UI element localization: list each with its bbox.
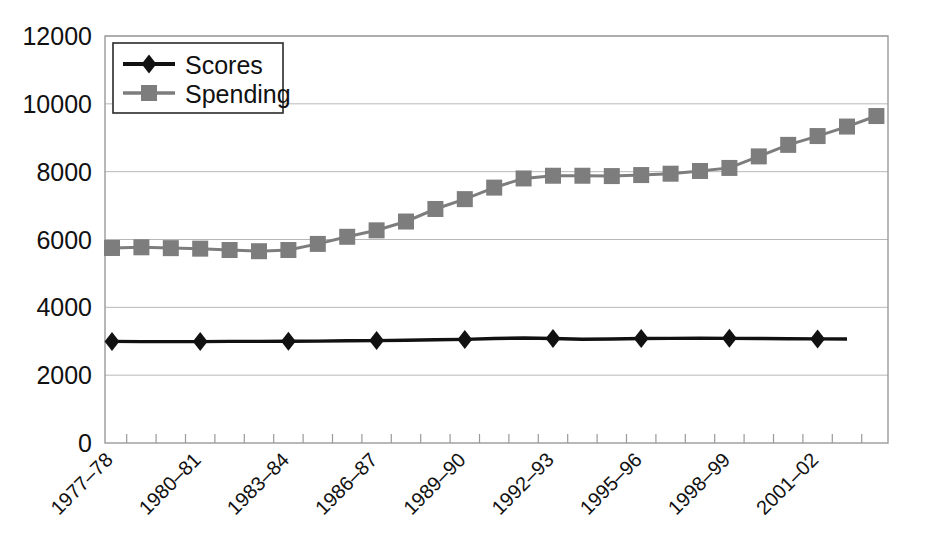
marker-spending [721,160,737,176]
marker-spending [780,137,796,153]
marker-spending [516,170,532,186]
marker-spending [427,201,443,217]
y-tick-label: 10000 [22,90,92,118]
marker-spending [398,214,414,230]
y-tick-label: 0 [78,429,92,457]
marker-spending [810,128,826,144]
marker-spending [545,168,561,184]
marker-spending [692,163,708,179]
marker-spending [663,166,679,182]
marker-spending [868,108,884,124]
legend-marker-spending [141,85,157,101]
marker-spending [486,180,502,196]
marker-spending [751,148,767,164]
marker-spending [280,242,296,258]
y-tick-label: 12000 [22,22,92,50]
y-tick-label: 6000 [36,226,92,254]
marker-spending [574,168,590,184]
marker-spending [251,243,267,259]
marker-spending [604,168,620,184]
chart-legend: ScoresSpending [113,43,291,113]
marker-spending [133,239,149,255]
marker-spending [839,119,855,135]
marker-spending [369,222,385,238]
legend-label-scores: Scores [185,51,263,79]
y-tick-label: 8000 [36,158,92,186]
chart-figure: 120001000080006000400020000 1977–781980–… [0,0,938,556]
marker-spending [163,240,179,256]
marker-spending [457,191,473,207]
marker-spending [222,242,238,258]
y-tick-label: 4000 [36,293,92,321]
line-chart-canvas: 120001000080006000400020000 1977–781980–… [0,0,938,556]
marker-spending [633,167,649,183]
marker-spending [192,241,208,257]
legend-label-spending: Spending [185,80,291,108]
marker-spending [339,229,355,245]
marker-spending [310,236,326,252]
marker-spending [104,240,120,256]
y-tick-label: 2000 [36,361,92,389]
